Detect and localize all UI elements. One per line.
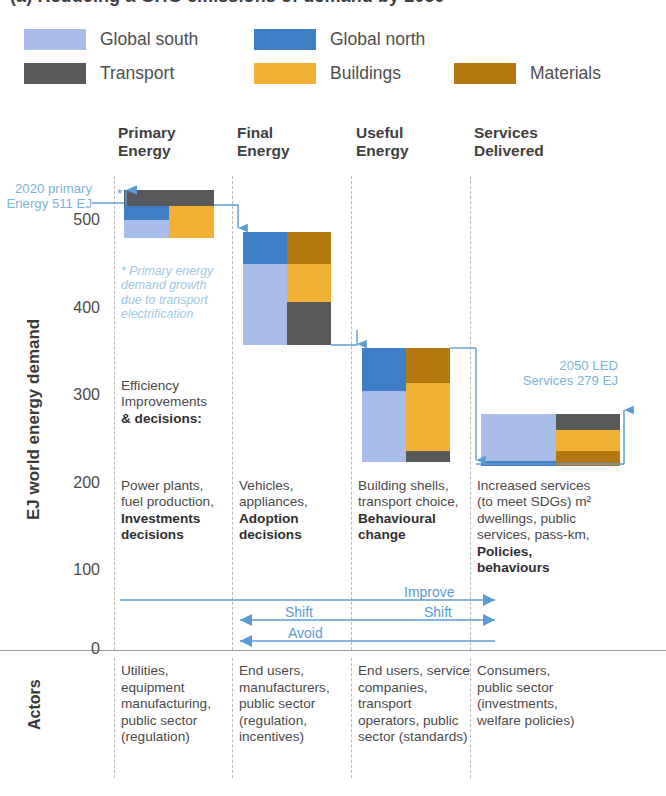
body-line-bold: behaviours bbox=[477, 560, 627, 576]
efficiency-line1: Efficiency bbox=[121, 378, 231, 394]
legend-row: Global south Global north bbox=[24, 22, 644, 56]
body-bold-text: behaviours bbox=[477, 560, 550, 575]
body-line-bold: Adoption bbox=[239, 511, 347, 527]
actors-divider-3 bbox=[351, 658, 352, 778]
column-header-line1: Useful bbox=[356, 124, 409, 142]
legend-label-global-south: Global south bbox=[100, 29, 198, 50]
column-body-final-energy: Vehicles, appliances, Adoption decisions bbox=[239, 478, 347, 544]
body-bold-text: Investments bbox=[121, 511, 200, 526]
bar-segment-buildings bbox=[169, 206, 214, 238]
actors-primary-energy: Utilities, equipment manufacturing, publ… bbox=[121, 663, 231, 746]
bar-segment-materials bbox=[556, 451, 620, 466]
legend: Global south Global north Transport Buil… bbox=[24, 22, 644, 90]
column-header-final-energy: Final Energy bbox=[237, 124, 290, 160]
body-line-bold: Investments bbox=[121, 511, 229, 527]
bar-segment-global-north bbox=[124, 206, 169, 220]
body-bold-text: decisions bbox=[121, 527, 184, 542]
actor-line: End users, bbox=[239, 663, 349, 680]
footnote-line4: electrification bbox=[121, 307, 233, 321]
body-line: appliances, bbox=[239, 494, 347, 510]
body-bold-text: decisions bbox=[239, 527, 302, 542]
column-header-line2: Delivered bbox=[474, 142, 544, 160]
bar-primary-energy bbox=[124, 190, 214, 238]
actors-final-energy: End users, manufacturers, public sector … bbox=[239, 663, 349, 746]
annotation-line1: 2020 primary bbox=[0, 181, 92, 196]
annotation-2050-led-services: 2050 LED Services 279 EJ bbox=[486, 358, 618, 388]
actor-line: public sector bbox=[121, 713, 231, 730]
y-tick-300: 300 bbox=[56, 386, 100, 404]
actor-line: sector (standards) bbox=[358, 729, 476, 746]
actor-line: manufacturing, bbox=[121, 696, 231, 713]
y-tick-400: 400 bbox=[56, 299, 100, 317]
column-divider-2 bbox=[232, 176, 233, 650]
asterisk-marker: * bbox=[117, 186, 122, 201]
y-tick-100: 100 bbox=[56, 561, 100, 579]
actor-line: transport bbox=[358, 696, 476, 713]
bar-segment-global-north bbox=[362, 348, 406, 391]
legend-swatch-buildings bbox=[254, 63, 316, 84]
actors-services-delivered: Consumers, public sector (investments, w… bbox=[477, 663, 627, 729]
arrow-label-avoid: Avoid bbox=[288, 625, 323, 641]
bar-final-energy bbox=[243, 232, 331, 345]
annotation-line2: Energy 511 EJ bbox=[0, 196, 92, 211]
actor-line: operators, public bbox=[358, 713, 476, 730]
y-tick-0: 0 bbox=[56, 640, 100, 658]
footnote-transport-electrification: * Primary energy demand growth due to tr… bbox=[121, 264, 233, 322]
arrow-label-shift-right: Shift bbox=[424, 604, 452, 620]
legend-label-global-north: Global north bbox=[330, 29, 425, 50]
body-line: Vehicles, bbox=[239, 478, 347, 494]
actor-line: (investments, bbox=[477, 696, 627, 713]
annotation-2020-primary-energy: 2020 primary Energy 511 EJ bbox=[0, 181, 92, 211]
bar-segment-buildings bbox=[556, 430, 620, 451]
column-header-line1: Final bbox=[237, 124, 290, 142]
arrow-label-shift-left: Shift bbox=[285, 604, 313, 620]
column-divider-3 bbox=[351, 176, 352, 650]
annotation-line1: 2050 LED bbox=[486, 358, 618, 373]
column-divider-4 bbox=[470, 176, 471, 650]
legend-label-transport: Transport bbox=[100, 63, 174, 84]
bar-useful-energy bbox=[362, 348, 450, 462]
bar-segment-global-south bbox=[124, 220, 169, 238]
footnote-line1: * Primary energy bbox=[121, 264, 233, 278]
body-line: dwellings, public bbox=[477, 511, 627, 527]
actor-line: incentives) bbox=[239, 729, 349, 746]
actors-divider-2 bbox=[232, 658, 233, 778]
legend-label-materials: Materials bbox=[530, 63, 601, 84]
body-line: services, pass-km, bbox=[477, 527, 627, 543]
y-axis-label: EJ world energy demand bbox=[24, 319, 44, 520]
footnote-line3: due to transport bbox=[121, 293, 233, 307]
column-divider-1 bbox=[114, 176, 115, 650]
bar-segment-transport bbox=[287, 302, 331, 345]
body-line-bold: Policies, bbox=[477, 544, 627, 560]
actor-line: equipment bbox=[121, 680, 231, 697]
actor-line: public sector bbox=[477, 680, 627, 697]
body-bold-text: change bbox=[358, 527, 406, 542]
column-header-services-delivered: Services Delivered bbox=[474, 124, 544, 160]
body-line-bold: decisions bbox=[121, 527, 229, 543]
actors-useful-energy: End users, service companies, transport … bbox=[358, 663, 476, 746]
actors-row-label: Actors bbox=[26, 679, 44, 730]
legend-item-buildings: Buildings bbox=[254, 63, 454, 84]
actor-line: manufacturers, bbox=[239, 680, 349, 697]
bar-segment-buildings bbox=[406, 383, 450, 451]
body-line: fuel production, bbox=[121, 494, 229, 510]
bar-segment-transport bbox=[124, 190, 214, 206]
legend-label-buildings: Buildings bbox=[330, 63, 401, 84]
column-body-useful-energy: Building shells, transport choice, Behav… bbox=[358, 478, 470, 544]
body-line: Power plants, bbox=[121, 478, 229, 494]
column-header-useful-energy: Useful Energy bbox=[356, 124, 409, 160]
annotation-line2: Services 279 EJ bbox=[486, 373, 618, 388]
legend-row: Transport Buildings Materials bbox=[24, 56, 644, 90]
body-line: (to meet SDGs) m² bbox=[477, 494, 627, 510]
actor-line: Utilities, bbox=[121, 663, 231, 680]
legend-item-transport: Transport bbox=[24, 63, 254, 84]
bar-segment-buildings bbox=[287, 264, 331, 302]
body-bold-text: Adoption bbox=[239, 511, 299, 526]
body-line-bold: Behavioural bbox=[358, 511, 470, 527]
column-body-services-delivered: Increased services (to meet SDGs) m² dwe… bbox=[477, 478, 627, 576]
legend-swatch-materials bbox=[454, 63, 516, 84]
body-line: transport choice, bbox=[358, 494, 470, 510]
legend-item-materials: Materials bbox=[454, 63, 601, 84]
bar-services-delivered bbox=[481, 414, 620, 466]
column-body-primary-energy: Power plants, fuel production, Investmen… bbox=[121, 478, 229, 544]
